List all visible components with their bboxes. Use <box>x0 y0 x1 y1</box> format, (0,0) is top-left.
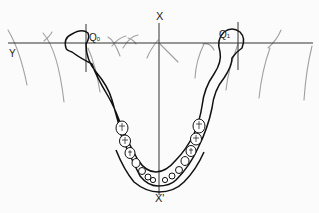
diagram-drawing <box>0 0 319 213</box>
x-axis-label-bottom: X' <box>155 193 164 204</box>
q0-subscript: 0 <box>97 36 100 42</box>
axes <box>8 22 313 195</box>
mandible-outline <box>65 29 243 192</box>
x-axis-label-top: X <box>156 11 163 22</box>
mandible-diagram: X X' Y Q0 Q1 <box>0 0 319 213</box>
q1-subscript: 1 <box>227 33 230 39</box>
guide-curves <box>8 30 312 102</box>
q0-main: Q <box>89 32 97 43</box>
q0-label: Q0 <box>89 33 100 43</box>
q1-main: Q <box>219 29 227 40</box>
q1-label: Q1 <box>219 30 230 40</box>
y-axis-label: Y <box>9 49 16 59</box>
